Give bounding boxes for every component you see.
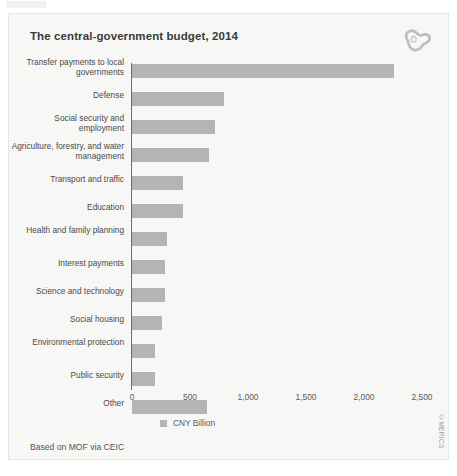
category-label: Education (9, 202, 124, 212)
chart-legend: CNY Billion (9, 418, 450, 429)
category-label: Science and technology (9, 286, 124, 296)
legend-label: CNY Billion (173, 418, 215, 428)
category-label: Defense (9, 90, 124, 100)
chart-title: The central-government budget, 2014 (30, 30, 238, 42)
bar-row: Education (9, 202, 450, 226)
x-tick-1500: 1,500 (296, 392, 317, 402)
x-axis: 0 500 1,000 1,500 2,000 2,500 (9, 392, 450, 412)
merics-blob-logo-icon (400, 26, 434, 56)
x-tick-0: 0 (130, 392, 135, 402)
legend-square-icon (160, 420, 167, 427)
bar-row: Environmental protection (9, 342, 450, 366)
category-label: Interest payments (9, 258, 124, 268)
bar-agriculture-forestry-and-water-management (132, 148, 209, 162)
category-label: Public security (9, 370, 124, 380)
bar-row: Social housing (9, 314, 450, 338)
plot-area: Transfer payments to local governments D… (9, 58, 450, 398)
bar-health-and-family-planning (132, 232, 167, 246)
category-label: Environmental protection (9, 337, 124, 347)
bar-social-housing (132, 316, 162, 330)
x-tick-1000: 1,000 (238, 392, 259, 402)
chart-card: The central-government budget, 2014 Tran… (8, 13, 449, 460)
chart-page: The central-government budget, 2014 Tran… (0, 0, 457, 476)
bar-transport-and-traffic (132, 176, 183, 190)
x-tick-2000: 2,000 (354, 392, 375, 402)
bar-environmental-protection (132, 344, 155, 358)
copyright-note: ©MERICS (438, 414, 445, 449)
bar-social-security-and-employment (132, 120, 215, 134)
scan-artifact (6, 1, 46, 8)
category-label: Agriculture, forestry, and water managem… (9, 141, 124, 161)
bar-row: Defense (9, 90, 450, 114)
category-label: Health and family planning (9, 225, 124, 235)
bar-row: Health and family planning (9, 230, 450, 254)
bar-row: Social security and employment (9, 118, 450, 142)
category-label: Transfer payments to local governments (9, 57, 124, 77)
bar-row: Public security (9, 370, 450, 394)
bar-row: Transport and traffic (9, 174, 450, 198)
bar-row: Interest payments (9, 258, 450, 282)
bar-education (132, 204, 183, 218)
category-label: Social security and employment (9, 113, 124, 133)
x-tick-2500: 2,500 (412, 392, 433, 402)
bar-row: Agriculture, forestry, and water managem… (9, 146, 450, 170)
x-tick-500: 500 (183, 392, 197, 402)
bar-transfer-payments-to-local-governments (132, 64, 394, 78)
bar-defense (132, 92, 224, 106)
bar-public-security (132, 372, 155, 386)
bar-row: Transfer payments to local governments (9, 62, 450, 86)
bar-interest-payments (132, 260, 165, 274)
category-label: Transport and traffic (9, 174, 124, 184)
bar-science-and-technology (132, 288, 165, 302)
category-label: Social housing (9, 314, 124, 324)
bar-row: Science and technology (9, 286, 450, 310)
source-note: Based on MOF via CEIC (30, 442, 124, 452)
